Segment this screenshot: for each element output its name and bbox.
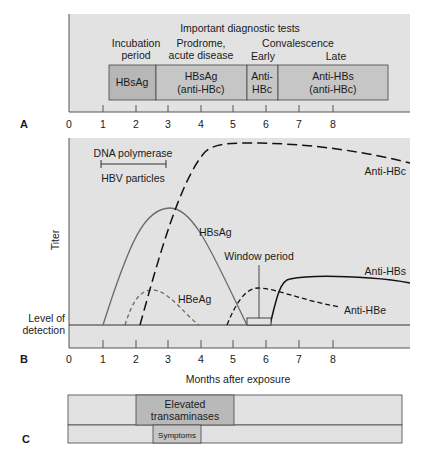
panel-a: Important diagnostic tests Incubation pe… <box>20 14 410 130</box>
hepatitis-b-figure: Important diagnostic tests Incubation pe… <box>0 0 426 460</box>
test-label-anti: Anti- <box>251 70 273 82</box>
detection-label-2: detection <box>22 324 65 336</box>
phase-early: Early <box>251 50 276 62</box>
svg-text:1: 1 <box>100 353 106 365</box>
test-label-antihbc-late: (anti-HBc) <box>309 83 356 95</box>
svg-text:1: 1 <box>100 118 106 130</box>
panel-c: Elevated transaminases Symptoms C <box>22 395 402 445</box>
symptoms-label: Symptoms <box>158 431 196 440</box>
phase-convalescence: Convalescence <box>262 37 334 49</box>
panel-b-letter: B <box>20 353 28 365</box>
hbv-particles-label: HBV particles <box>101 172 165 184</box>
phase-prodrome-1: Prodrome, <box>176 37 225 49</box>
phase-late: Late <box>326 50 347 62</box>
test-label-antihbs: Anti-HBs <box>312 70 353 82</box>
window-period-box <box>247 318 271 325</box>
svg-text:8: 8 <box>330 118 336 130</box>
x-axis-label: Months after exposure <box>186 373 291 385</box>
panel-c-top-row <box>68 395 402 425</box>
label-hbeag: HBeAg <box>178 293 211 305</box>
panel-b: Titer Level of detection DNA polymerase … <box>20 138 410 385</box>
test-label-antihbc-paren: (anti-HBc) <box>177 83 224 95</box>
svg-text:5: 5 <box>230 118 236 130</box>
svg-text:6: 6 <box>263 353 269 365</box>
detection-label-1: Level of <box>28 312 65 324</box>
svg-text:6: 6 <box>263 118 269 130</box>
panel-c-letter: C <box>22 433 30 445</box>
panel-a-letter: A <box>20 118 28 130</box>
window-period-label: Window period <box>224 250 294 262</box>
test-label-hbsag: HBsAg <box>116 76 149 88</box>
dna-polymerase-label: DNA polymerase <box>94 147 173 159</box>
test-label-hbsag-2: HBsAg <box>185 70 218 82</box>
svg-text:4: 4 <box>198 118 204 130</box>
label-hbsag: HBsAg <box>199 226 232 238</box>
panel-c-bottom-row <box>68 425 402 443</box>
test-label-hbc: HBc <box>252 83 272 95</box>
phase-incubation-1: Incubation <box>112 37 161 49</box>
svg-text:3: 3 <box>165 353 171 365</box>
phase-incubation-2: period <box>121 49 150 61</box>
phase-prodrome-2: acute disease <box>169 49 234 61</box>
svg-text:0: 0 <box>66 353 72 365</box>
transaminases-label-1: Elevated <box>165 398 206 410</box>
svg-text:7: 7 <box>296 353 302 365</box>
panel-b-tick-labels: 0 1 2 3 4 5 6 7 8 <box>66 353 336 365</box>
label-anti-hbc: Anti-HBc <box>365 165 406 177</box>
transaminases-label-2: transaminases <box>151 410 219 422</box>
svg-text:0: 0 <box>66 118 72 130</box>
label-anti-hbs: Anti-HBs <box>365 265 406 277</box>
label-anti-hbe: Anti-HBe <box>344 304 386 316</box>
svg-text:2: 2 <box>133 353 139 365</box>
panel-a-title: Important diagnostic tests <box>180 22 300 34</box>
panel-b-background <box>69 138 410 348</box>
svg-text:8: 8 <box>330 353 336 365</box>
panel-a-tick-labels: 0 1 2 3 4 5 6 7 8 <box>66 118 336 130</box>
svg-text:4: 4 <box>198 353 204 365</box>
svg-text:7: 7 <box>296 118 302 130</box>
y-axis-label: Titer <box>49 229 61 250</box>
svg-text:5: 5 <box>230 353 236 365</box>
svg-text:2: 2 <box>133 118 139 130</box>
svg-text:3: 3 <box>165 118 171 130</box>
